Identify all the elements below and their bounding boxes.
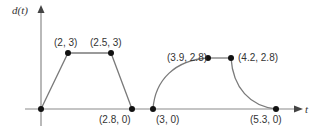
y-axis-label: d(t)	[12, 4, 28, 17]
axes	[25, 5, 303, 126]
distance-time-graph: d(t) t (2, 3) (2.5, 3) (2.8, 0) (3, 0) (…	[0, 0, 318, 135]
point-4.2-2.8	[228, 55, 234, 61]
point-origin	[38, 106, 44, 112]
point-2.5-3	[108, 50, 114, 56]
label-2.8-0: (2.8, 0)	[99, 114, 131, 125]
point-2.8-0	[129, 106, 135, 112]
x-axis-label: t	[305, 103, 309, 115]
trip-one-path	[41, 53, 132, 109]
label-3-0: (3, 0)	[156, 114, 179, 125]
trip-two-path	[153, 58, 276, 109]
x-axis-arrow-icon	[294, 106, 303, 113]
label-5.3-0: (5.3, 0)	[250, 114, 282, 125]
label-3.9-2.8: (3.9, 2.8)	[167, 52, 207, 63]
label-2.5-3: (2.5, 3)	[90, 37, 122, 48]
label-2-3: (2, 3)	[54, 37, 77, 48]
point-3-0	[150, 106, 156, 112]
label-4.2-2.8: (4.2, 2.8)	[238, 52, 278, 63]
point-2-3	[65, 50, 71, 56]
point-5.3-0	[273, 106, 279, 112]
y-axis-arrow-icon	[38, 5, 45, 13]
